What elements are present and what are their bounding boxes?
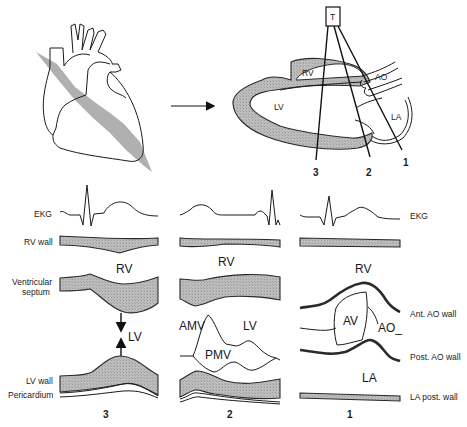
lv-label-3: LV [128, 330, 142, 344]
septum-band-2 [180, 275, 280, 306]
lv-label: LV [274, 102, 284, 112]
panel-3: RV LV 3 [60, 185, 158, 420]
la-label-1: LA [362, 371, 377, 385]
rv-wall-band-1 [300, 238, 400, 247]
ekg-trace-2 [180, 190, 280, 225]
label-septum: septum [22, 287, 50, 297]
ekg-trace-1 [300, 196, 400, 226]
label-la-post-wall: LA post. wall [410, 392, 458, 402]
rv-label-1: RV [355, 262, 371, 276]
panel-1: RV AV AO_ LA 1 [300, 196, 402, 420]
rv-label: RV [302, 68, 314, 78]
ao-label: AO [375, 72, 388, 82]
transducer-label: T [330, 12, 335, 22]
label-pericardium: Pericardium [8, 390, 53, 400]
ao-label-1: AO_ [378, 321, 402, 335]
pmv-label: PMV [205, 348, 231, 362]
septum-band-3 [60, 274, 158, 313]
panel-number-1: 1 [347, 409, 353, 420]
lv-wall-band-3 [60, 356, 158, 395]
panel-number-2: 2 [227, 409, 233, 420]
ekg-trace-3 [60, 185, 158, 226]
beam-label-3: 3 [313, 167, 319, 178]
label-ekg-left: EKG [34, 209, 52, 219]
label-ventricular: Ventricular [12, 277, 52, 287]
panel-2: RV AMV LV PMV 2 [179, 190, 280, 420]
lv-label-2: LV [243, 319, 257, 333]
panel-number-3: 3 [103, 409, 109, 420]
left-labels: EKG RV wall Ventricular septum LV wall P… [8, 209, 53, 400]
cutting-plane [36, 52, 152, 172]
rv-label-2: RV [218, 255, 234, 269]
label-lv-wall: LV wall [26, 376, 53, 386]
beam-label-1: 1 [403, 157, 409, 168]
la-label: LA [391, 112, 402, 122]
lv-wall-band-2 [180, 371, 280, 399]
rv-wall-band-3 [60, 236, 158, 253]
label-rv-wall: RV wall [24, 237, 53, 247]
label-ant-ao-wall: Ant. AO wall [410, 309, 456, 319]
heart-illustration [36, 24, 152, 172]
rv-wall-band-2 [180, 238, 280, 247]
rv-label-3: RV [116, 262, 132, 276]
av-label: AV [343, 314, 358, 328]
m-mode-echocardiography-diagram: T RV LV AO LA 3 2 1 EKG RV wall Ventricu… [0, 0, 467, 427]
la-post-wall-band [300, 393, 400, 401]
beam-label-2: 2 [366, 167, 372, 178]
label-post-ao-wall: Post. AO wall [410, 352, 461, 362]
label-ekg-right: EKG [410, 211, 428, 221]
ant-ao-wall [300, 283, 400, 312]
long-axis-section: T RV LV AO LA 3 2 1 [233, 7, 412, 178]
right-labels: EKG Ant. AO wall Post. AO wall LA post. … [410, 211, 461, 402]
